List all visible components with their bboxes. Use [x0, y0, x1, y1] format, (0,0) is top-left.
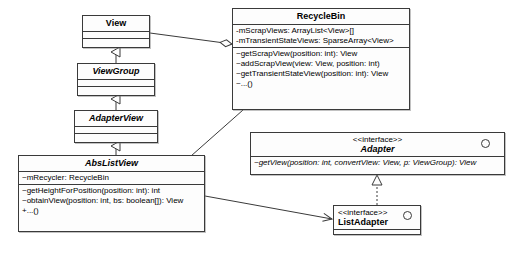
class-box-adapter[interactable]: <<interface>> Adapter ~getView(position:…: [250, 132, 505, 175]
operation-item: ~getScrapView(position: int): View: [236, 49, 406, 59]
class-operations-listadapter: [334, 230, 420, 237]
interface-circle-icon: [481, 139, 490, 148]
class-box-recyclebin[interactable]: RecycleBin -mScrapViews: ArrayList<View>…: [232, 8, 410, 110]
class-box-view[interactable]: View: [82, 15, 150, 48]
edge-realization-listadapter-adapter: [372, 175, 382, 205]
class-operations-adapter: ~getView(position: int, convertView: Vie…: [251, 157, 504, 169]
class-attributes-adapterview: [75, 127, 157, 134]
interface-circle-icon: [403, 211, 412, 220]
class-title-adapterview: AdapterView: [75, 111, 157, 127]
operation-item: ~...(): [236, 79, 406, 89]
class-attributes-recyclebin: -mScrapViews: ArrayList<View>[] -mTransi…: [233, 25, 409, 48]
class-title-viewgroup: ViewGroup: [78, 64, 154, 80]
class-title-recyclebin: RecycleBin: [233, 9, 409, 25]
operation-item: ~getView(position: int, convertView: Vie…: [254, 158, 501, 168]
attribute-item: ~mRecycler: RecycleBin: [22, 173, 201, 183]
class-operations-abslistview: ~getHeightForPosition(position: int): in…: [19, 185, 204, 217]
attribute-item: -mTransientStateViews: SparseArray<View>: [236, 36, 406, 46]
class-box-viewgroup[interactable]: ViewGroup: [77, 63, 155, 96]
class-title-listadapter: <<interface>> ListAdapter: [334, 206, 420, 230]
class-operations-viewgroup: [78, 87, 154, 94]
class-box-abslistview[interactable]: AbsListView ~mRecycler: RecycleBin ~getH…: [18, 155, 205, 232]
operation-item: ~obtainView(position: int, bs: boolean[]…: [22, 196, 201, 206]
attribute-item: -mScrapViews: ArrayList<View>[]: [236, 26, 406, 36]
edge-aggregation-view-recyclebin: [150, 33, 232, 44]
operation-item: ~getHeightForPosition(position: int): in…: [22, 186, 201, 196]
class-title-abslistview: AbsListView: [19, 156, 204, 172]
edge-association-abslistview-listadapter: [205, 196, 332, 219]
operation-item: ~getTransientStateView(position: int): V…: [236, 69, 406, 79]
class-attributes-viewgroup: [78, 80, 154, 87]
class-attributes-abslistview: ~mRecycler: RecycleBin: [19, 172, 204, 185]
class-box-listadapter[interactable]: <<interface>> ListAdapter: [333, 205, 421, 235]
class-attributes-view: [83, 32, 149, 39]
uml-diagram-canvas: ListAdapter --> View ViewGroup AdapterVi…: [0, 0, 513, 258]
class-box-adapterview[interactable]: AdapterView: [74, 110, 158, 143]
interface-name-label: Adapter: [254, 145, 501, 155]
class-title-view: View: [83, 16, 149, 32]
operation-item: ~addScrapView(view: View, position: int): [236, 59, 406, 69]
edge-association-recyclebin-abslistview: [191, 110, 243, 156]
class-title-adapter: <<interface>> Adapter: [251, 133, 504, 157]
class-operations-recyclebin: ~getScrapView(position: int): View ~addS…: [233, 48, 409, 90]
class-operations-adapterview: [75, 134, 157, 141]
operation-item: +...(): [22, 206, 201, 216]
class-operations-view: [83, 39, 149, 46]
